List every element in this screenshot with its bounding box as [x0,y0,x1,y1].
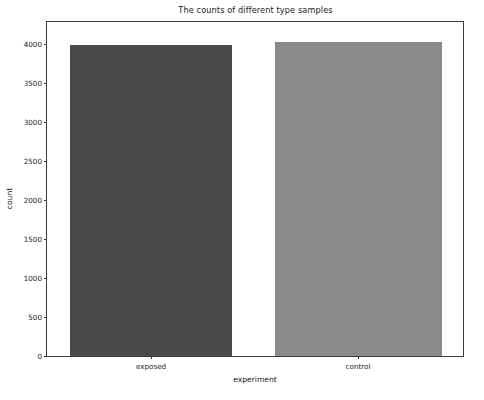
y-tick-mark [44,200,47,201]
y-tick-mark [44,278,47,279]
y-tick-label: 2500 [24,156,42,167]
plot-area [47,22,463,356]
y-tick-mark [44,83,47,84]
bar-exposed[interactable] [70,45,232,356]
chart-title: The counts of different type samples [46,5,465,16]
y-tick-mark [44,356,47,357]
y-tick-label: 3000 [24,117,42,128]
y-tick-label: 1000 [24,273,42,284]
y-tick-mark [44,317,47,318]
plot-frame: 0 500 1000 1500 2000 2500 3000 3500 [46,21,464,357]
x-tick-mark [358,356,359,359]
y-tick-mark [44,161,47,162]
y-axis-label-text: count [4,187,15,208]
x-tick-label: control [318,361,398,372]
bar-control[interactable] [275,42,442,356]
bar-chart-figure: The counts of different type samples cou… [0,0,484,400]
y-tick-mark [44,122,47,123]
x-tick-mark [151,356,152,359]
x-tick-label: exposed [111,361,191,372]
y-tick-label: 3500 [24,78,42,89]
y-tick-label: 500 [28,312,42,323]
y-axis-label: count [4,178,15,218]
y-tick-label: 1500 [24,234,42,245]
y-tick-label: 2000 [24,195,42,206]
y-tick-label: 4000 [24,39,42,50]
x-axis-label: experiment [46,374,464,385]
y-tick-mark [44,44,47,45]
y-tick-label: 0 [37,351,42,362]
y-tick-mark [44,239,47,240]
